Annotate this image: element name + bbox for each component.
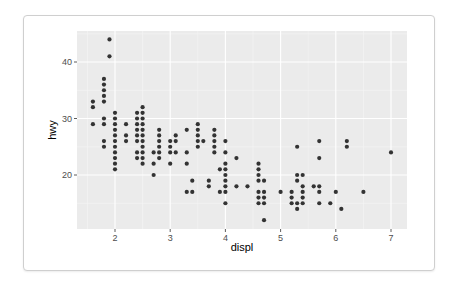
data-point	[262, 190, 266, 194]
data-point	[262, 201, 266, 205]
data-point	[113, 116, 117, 120]
data-point	[262, 218, 266, 222]
data-point	[317, 156, 321, 160]
x-tick-label: 3	[168, 233, 173, 243]
data-point	[212, 139, 216, 143]
data-point	[107, 54, 111, 58]
data-point	[212, 150, 216, 154]
data-point	[223, 184, 227, 188]
data-point	[102, 94, 106, 98]
data-point	[345, 139, 349, 143]
data-point	[295, 179, 299, 183]
data-point	[141, 145, 145, 149]
data-point	[152, 162, 156, 166]
data-point	[102, 77, 106, 81]
data-point	[223, 139, 227, 143]
data-point	[317, 139, 321, 143]
y-tick-label: 30	[62, 114, 72, 124]
data-point	[256, 201, 260, 205]
data-point	[113, 167, 117, 171]
data-point	[301, 190, 305, 194]
plot-panel	[77, 31, 407, 229]
data-point	[91, 99, 95, 103]
data-point	[256, 179, 260, 183]
data-point	[223, 162, 227, 166]
data-point	[290, 196, 294, 200]
data-point	[168, 150, 172, 154]
data-point	[124, 122, 128, 126]
data-point	[196, 145, 200, 149]
x-tick-label: 5	[278, 233, 283, 243]
data-point	[141, 162, 145, 166]
data-point	[113, 139, 117, 143]
data-point	[135, 156, 139, 160]
data-point	[141, 116, 145, 120]
data-point	[168, 139, 172, 143]
data-point	[141, 139, 145, 143]
data-point	[389, 150, 393, 154]
data-point	[290, 201, 294, 205]
scatter-chart: 234567203040displhwy	[0, 0, 456, 284]
data-point	[185, 128, 189, 132]
data-point	[102, 116, 106, 120]
data-point	[141, 133, 145, 137]
y-tick-label: 20	[62, 170, 72, 180]
y-axis-title: hwy	[46, 120, 58, 140]
data-point	[135, 139, 139, 143]
data-point	[91, 105, 95, 109]
data-point	[113, 162, 117, 166]
data-point	[212, 128, 216, 132]
data-point	[113, 122, 117, 126]
data-point	[102, 122, 106, 126]
x-tick-label: 4	[223, 233, 228, 243]
data-point	[317, 190, 321, 194]
data-point	[279, 190, 283, 194]
data-point	[157, 145, 161, 149]
data-point	[135, 128, 139, 132]
data-point	[295, 207, 299, 211]
data-point	[196, 128, 200, 132]
data-point	[157, 156, 161, 160]
data-point	[113, 150, 117, 154]
data-point	[141, 111, 145, 115]
data-point	[124, 133, 128, 137]
data-point	[152, 173, 156, 177]
data-point	[102, 88, 106, 92]
data-point	[295, 173, 299, 177]
x-tick-label: 6	[333, 233, 338, 243]
data-point	[196, 133, 200, 137]
data-point	[113, 133, 117, 137]
data-point	[157, 139, 161, 143]
data-point	[102, 83, 106, 87]
data-point	[301, 201, 305, 205]
data-point	[201, 139, 205, 143]
data-point	[334, 190, 338, 194]
data-point	[328, 201, 332, 205]
data-point	[223, 179, 227, 183]
data-point	[185, 150, 189, 154]
data-point	[157, 128, 161, 132]
data-point	[141, 156, 145, 160]
data-point	[113, 111, 117, 115]
data-point	[174, 133, 178, 137]
data-point	[135, 150, 139, 154]
data-point	[152, 150, 156, 154]
data-point	[141, 105, 145, 109]
data-point	[107, 37, 111, 41]
data-point	[361, 190, 365, 194]
data-point	[190, 179, 194, 183]
data-point	[185, 162, 189, 166]
x-axis-title: displ	[231, 241, 254, 253]
data-point	[174, 150, 178, 154]
data-point	[256, 196, 260, 200]
data-point	[102, 139, 106, 143]
data-point	[113, 145, 117, 149]
data-point	[141, 128, 145, 132]
data-point	[234, 156, 238, 160]
data-point	[196, 139, 200, 143]
data-point	[317, 201, 321, 205]
data-point	[301, 196, 305, 200]
data-point	[157, 133, 161, 137]
data-point	[223, 190, 227, 194]
data-point	[345, 145, 349, 149]
